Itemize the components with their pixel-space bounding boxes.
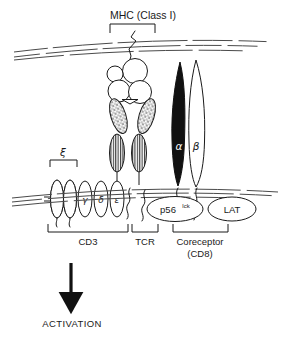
tcr-group-label: TCR xyxy=(135,236,155,247)
lat-label: LAT xyxy=(224,204,241,215)
activation-label: ACTIVATION xyxy=(42,318,102,329)
coreceptor-cd8: α β xyxy=(172,60,205,187)
mhc-bracket xyxy=(110,24,155,33)
cd8-beta-chain xyxy=(189,60,205,187)
lat-molecule: LAT xyxy=(208,197,256,221)
mhc-alpha1-domain xyxy=(123,59,148,84)
tail-tcr-right xyxy=(142,190,145,221)
cd3-zeta-label: ξ xyxy=(59,146,66,158)
tcr-c-domain-left xyxy=(110,134,125,172)
coreceptor-bracket xyxy=(173,224,228,232)
cd8-alpha-label: α xyxy=(176,140,183,152)
cd8-beta-label: β xyxy=(192,140,200,152)
coreceptor-group-label-line2: (CD8) xyxy=(187,248,212,259)
tcr-c-domain-right xyxy=(132,134,147,172)
coreceptor-group-label-line1: Coreceptor xyxy=(177,236,224,247)
tail-tcr-left xyxy=(127,188,130,219)
cd3-group-label: CD3 xyxy=(78,236,97,247)
tail-zeta-right xyxy=(69,218,70,227)
tcr-heterodimer xyxy=(106,97,159,185)
cd3-epsilon-label: ε xyxy=(115,195,120,205)
apc-membrane xyxy=(14,40,276,60)
mhc-label: MHC (Class I) xyxy=(110,9,176,21)
cd3-delta-label: δ xyxy=(98,195,104,205)
cd3-bracket xyxy=(48,224,128,232)
tcr-bracket xyxy=(132,224,158,232)
mhc-beta2m-domain xyxy=(107,66,123,82)
zeta-bracket xyxy=(50,160,77,167)
cd8-alpha-chain xyxy=(172,62,185,186)
tail-zeta-left xyxy=(56,218,57,227)
tcr-complex-diagram: MHC (Class I) xyxy=(0,0,286,343)
p56lck-molecule: p56 lck xyxy=(147,197,203,222)
p56lck-label: p56 xyxy=(160,204,176,215)
p56lck-superscript: lck xyxy=(182,203,190,209)
mhc-alpha2-domain xyxy=(108,80,130,102)
diagram-canvas: MHC (Class I) xyxy=(0,0,286,343)
